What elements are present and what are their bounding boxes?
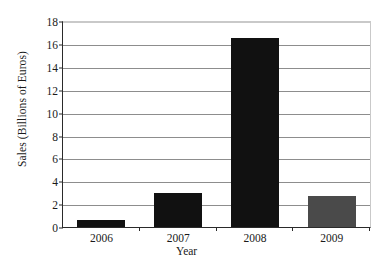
x-tick-label-2008: 2008 xyxy=(243,232,266,244)
y-tick-label-16: 16 xyxy=(47,39,59,51)
x-tick-label-2009: 2009 xyxy=(320,232,343,244)
bar-2006[interactable] xyxy=(77,220,125,227)
bar-slot-2007: 2007 xyxy=(140,22,217,227)
x-tickmark-2008 xyxy=(292,227,293,231)
x-axis-title: Year xyxy=(176,245,197,257)
bar-slot-2008: 2008 xyxy=(217,22,294,227)
bar-chart-figure: Sales (Billions of Euros) 18 16 14 12 10… xyxy=(0,0,392,266)
bar-slot-2006: 2006 xyxy=(63,22,140,227)
y-tick-label-6: 6 xyxy=(52,153,58,165)
y-axis-title: Sales (Billions of Euros) xyxy=(16,19,28,199)
bar-2008[interactable] xyxy=(231,38,279,227)
x-tickmark-2009 xyxy=(369,227,370,231)
bar-series: 2006 2007 2008 2009 xyxy=(63,22,370,227)
bar-2009[interactable] xyxy=(308,196,356,227)
plot-area: 18 16 14 12 10 8 6 4 2 0 2 xyxy=(62,21,371,228)
y-tick-label-18: 18 xyxy=(47,16,59,28)
y-tick-label-2: 2 xyxy=(52,199,58,211)
y-tick-label-10: 10 xyxy=(47,108,59,120)
y-tick-label-14: 14 xyxy=(47,62,59,74)
x-tickmark-2006 xyxy=(139,227,140,231)
y-tick-label-4: 4 xyxy=(52,176,58,188)
x-tick-label-2006: 2006 xyxy=(90,232,113,244)
y-tick-label-8: 8 xyxy=(52,131,58,143)
x-tick-label-2007: 2007 xyxy=(167,232,190,244)
x-tickmark-2007 xyxy=(216,227,217,231)
bar-2007[interactable] xyxy=(154,193,202,227)
y-tickmark-0 xyxy=(59,228,63,229)
y-tick-label-0: 0 xyxy=(52,222,58,234)
bar-slot-2009: 2009 xyxy=(293,22,370,227)
y-tick-label-12: 12 xyxy=(47,85,59,97)
